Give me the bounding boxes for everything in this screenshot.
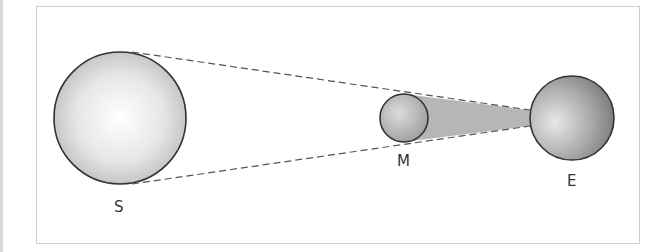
sun-label: S [114, 198, 124, 216]
moon-circle [380, 94, 428, 142]
lower-tangent-line [132, 126, 530, 184]
moon-label: M [397, 152, 410, 170]
eclipse-diagram [0, 0, 655, 252]
upper-tangent-line [132, 52, 530, 110]
earth-label: E [567, 172, 576, 190]
sun-circle [54, 52, 186, 184]
earth-circle [530, 76, 614, 160]
